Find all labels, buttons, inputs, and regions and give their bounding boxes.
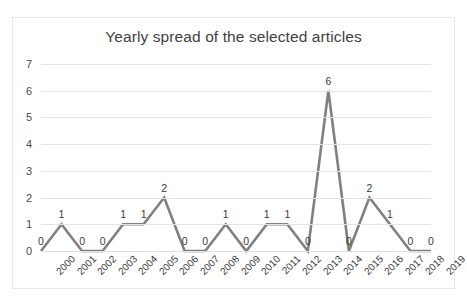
data-label-2009: 1 xyxy=(223,209,229,220)
gridline-5 xyxy=(41,117,431,118)
x-tick-label-2000: 2000 xyxy=(55,254,78,277)
data-label-2019: 0 xyxy=(428,236,434,247)
chart-card: Yearly spread of the selected articles 0… xyxy=(12,17,455,289)
gridline-4 xyxy=(41,144,431,145)
data-label-2014: 6 xyxy=(325,75,331,86)
y-tick-label-4: 4 xyxy=(26,139,32,150)
x-tick-label-2005: 2005 xyxy=(157,254,180,277)
data-label-2008: 0 xyxy=(202,236,208,247)
data-label-2006: 2 xyxy=(161,182,167,193)
data-label-2013: 0 xyxy=(305,236,311,247)
y-axis-tick-labels: 01234567 xyxy=(13,64,37,251)
x-tick-label-2004: 2004 xyxy=(137,254,160,277)
x-axis-tick-labels: 2000200120022003200420052006200720082009… xyxy=(41,254,431,290)
x-tick-label-2015: 2015 xyxy=(362,254,385,277)
gridline-2 xyxy=(41,198,431,199)
x-tick-label-2014: 2014 xyxy=(342,254,365,277)
gridline-0 xyxy=(41,251,431,252)
x-tick-label-2011: 2011 xyxy=(280,254,302,276)
x-tick-label-2008: 2008 xyxy=(219,254,242,277)
data-label-2003: 0 xyxy=(100,236,106,247)
gridline-7 xyxy=(41,64,431,65)
x-tick-label-2012: 2012 xyxy=(301,254,324,277)
data-label-2005: 1 xyxy=(141,209,147,220)
data-label-2010: 0 xyxy=(243,236,249,247)
data-label-2016: 2 xyxy=(366,182,372,193)
gridline-1 xyxy=(41,224,431,225)
y-tick-label-2: 2 xyxy=(26,192,32,203)
data-label-2012: 1 xyxy=(284,209,290,220)
y-tick-label-0: 0 xyxy=(26,246,32,257)
x-tick-label-2006: 2006 xyxy=(178,254,201,277)
data-label-2015: 0 xyxy=(346,236,352,247)
data-label-2011: 1 xyxy=(264,209,270,220)
x-tick-label-2003: 2003 xyxy=(116,254,139,277)
y-tick-label-1: 1 xyxy=(26,219,32,230)
x-tick-label-2002: 2002 xyxy=(96,254,119,277)
y-tick-label-5: 5 xyxy=(26,112,32,123)
data-label-2018: 0 xyxy=(408,236,414,247)
plot-area: 01001120010110602100 xyxy=(41,64,431,251)
data-label-2001: 1 xyxy=(59,209,65,220)
x-tick-label-2010: 2010 xyxy=(260,254,283,277)
x-tick-label-2018: 2018 xyxy=(424,254,447,277)
data-label-2002: 0 xyxy=(79,236,85,247)
x-tick-label-2017: 2017 xyxy=(403,254,426,277)
gridline-3 xyxy=(41,171,431,172)
y-tick-label-3: 3 xyxy=(26,165,32,176)
line-series-articles-per-year xyxy=(41,64,431,251)
x-tick-label-2007: 2007 xyxy=(198,254,221,277)
x-tick-label-2019: 2019 xyxy=(445,254,467,277)
data-label-2017: 1 xyxy=(387,209,393,220)
x-tick-label-2009: 2009 xyxy=(239,254,262,277)
data-label-2000: 0 xyxy=(38,236,44,247)
y-tick-label-6: 6 xyxy=(26,85,32,96)
x-tick-label-2016: 2016 xyxy=(383,254,406,277)
gridline-6 xyxy=(41,91,431,92)
data-label-2004: 1 xyxy=(120,209,126,220)
y-tick-label-7: 7 xyxy=(26,59,32,70)
chart-title: Yearly spread of the selected articles xyxy=(13,28,454,46)
x-tick-label-2001: 2001 xyxy=(75,254,98,277)
data-label-2007: 0 xyxy=(182,236,188,247)
x-tick-label-2013: 2013 xyxy=(321,254,344,277)
